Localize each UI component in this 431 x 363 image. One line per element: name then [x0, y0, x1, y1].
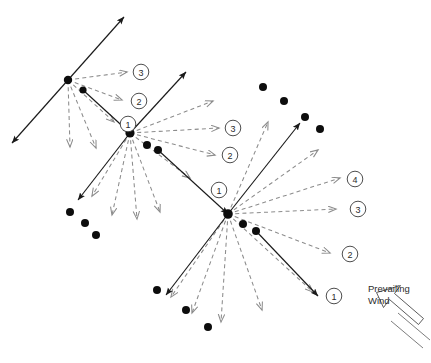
- label-left-3: 3: [133, 64, 149, 80]
- stage-number: 2: [227, 151, 232, 161]
- ember-dot: [280, 97, 288, 105]
- dashed-spread-vector: [68, 80, 114, 122]
- fire-spread-diagram: 3213214321 Prevailing Wind: [0, 0, 431, 363]
- solid-spread-vector: [12, 80, 68, 143]
- dashed-spread-vector: [68, 80, 70, 147]
- solid-spread-vector: [68, 17, 124, 80]
- ember-dot: [92, 231, 100, 239]
- solid-spread-vector: [166, 214, 228, 295]
- stage-number: 4: [352, 175, 357, 185]
- label-left-2: 2: [131, 93, 147, 109]
- origin-node-origin-left: [64, 76, 72, 84]
- ember-dot: [316, 125, 324, 133]
- ember-dot: [204, 323, 212, 331]
- stage-number: 2: [347, 250, 352, 260]
- dashed-spread-vector: [130, 128, 219, 133]
- dashed-spread-vector: [228, 150, 318, 214]
- stage-number: 3: [138, 68, 143, 78]
- solid-spread-vector: [228, 123, 300, 214]
- scatter-ember-dots: [66, 83, 324, 331]
- ember-dot: [301, 113, 309, 121]
- stage-number: 1: [125, 120, 130, 130]
- origin-node-origin-right: [223, 209, 233, 219]
- dashed-spread-vector: [92, 133, 130, 196]
- dashed-spread-vector: [68, 80, 122, 100]
- label-left-1: 1: [120, 116, 136, 132]
- label-right-4: 4: [347, 171, 363, 187]
- dashed-spread-vector: [192, 214, 228, 313]
- companion-dot: [252, 227, 260, 235]
- companion-dot: [79, 86, 86, 93]
- dashed-spread-vector: [228, 209, 336, 214]
- stage-circle-labels: 3213214321: [120, 64, 366, 304]
- label-right-2: 2: [342, 246, 358, 262]
- companion-dot: [154, 146, 162, 154]
- stage-number: 3: [230, 124, 235, 134]
- dashed-spread-vector: [68, 72, 127, 80]
- ember-dot: [182, 306, 190, 314]
- stage-number: 1: [331, 292, 336, 302]
- wind-tail-line-2: [391, 321, 423, 348]
- ember-dot: [66, 208, 74, 216]
- ember-dot: [153, 286, 161, 294]
- wind-label-line1: Prevailing: [368, 283, 410, 294]
- label-center-1: 1: [211, 182, 227, 198]
- label-center-3: 3: [225, 120, 241, 136]
- ember-dot: [259, 83, 267, 91]
- dashed-spread-vector: [171, 214, 228, 297]
- dashed-spread-vector: [130, 133, 215, 155]
- companion-dot: [143, 141, 151, 149]
- prevailing-wind-annotation: Prevailing Wind: [368, 283, 430, 348]
- label-right-1: 1: [326, 288, 342, 304]
- ember-dot: [81, 219, 89, 227]
- solid-spread-vector: [256, 231, 318, 296]
- companion-dot: [239, 220, 247, 228]
- stage-number: 2: [136, 97, 141, 107]
- stage-number: 3: [355, 205, 360, 215]
- solid-spread-vector: [78, 133, 130, 200]
- stage-number: 1: [216, 186, 221, 196]
- dashed-spread-vectors: [68, 72, 340, 322]
- label-center-2: 2: [222, 147, 238, 163]
- label-right-3: 3: [350, 201, 366, 217]
- dashed-spread-vector: [130, 133, 137, 219]
- wind-label-line2: Wind: [368, 295, 390, 306]
- diagram-canvas: 3213214321 Prevailing Wind: [0, 0, 431, 363]
- dashed-spread-vector: [228, 214, 330, 253]
- dashed-spread-vector: [228, 178, 340, 214]
